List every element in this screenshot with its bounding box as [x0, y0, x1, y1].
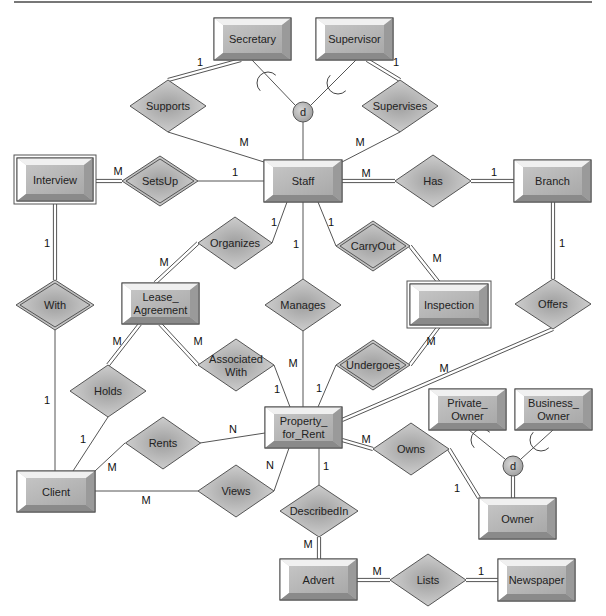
relationship-carryout[interactable]: CarryOut	[336, 221, 410, 271]
relationship-label: Organizes	[210, 237, 261, 249]
relationship-supports[interactable]: Supports	[130, 80, 206, 132]
entity-private_owner[interactable]: Private_Owner	[429, 389, 506, 430]
entity-secretary[interactable]: Secretary	[214, 18, 291, 60]
entity-newspaper[interactable]: Newspaper	[498, 559, 575, 601]
connector-line: M	[342, 132, 400, 162]
relationship-organizes[interactable]: Organizes	[198, 217, 272, 269]
cardinality-label: 1	[393, 56, 399, 68]
cardinality-label: 1	[478, 565, 484, 577]
subset-arc-icon	[327, 75, 346, 94]
connector-line: M	[409, 324, 442, 366]
connector-line: M	[107, 323, 142, 366]
connector-line: M	[95, 443, 125, 473]
cardinality-label: M	[355, 136, 364, 148]
relationship-label: DescribedIn	[290, 505, 349, 517]
disjoint-specialization-staff_disjoint: d	[293, 102, 313, 122]
cardinality-label: 1	[232, 166, 238, 178]
entity-staff[interactable]: Staff	[264, 160, 342, 202]
relationship-offers[interactable]: Offers	[515, 279, 591, 329]
cardinality-label: 1	[491, 166, 497, 178]
entity-interview[interactable]: Interview	[14, 155, 96, 204]
cardinality-label: 1	[274, 383, 280, 395]
disjoint-label: d	[510, 460, 516, 472]
relationship-undergoes[interactable]: Undergoes	[336, 340, 410, 390]
entity-supervisor[interactable]: Supervisor	[316, 18, 393, 60]
entity-label: Client	[42, 486, 70, 498]
cardinality-label: 1	[559, 237, 565, 249]
entity-label: Inspection	[424, 299, 474, 311]
relationship-with[interactable]: With	[16, 280, 94, 330]
connector-line: 1	[318, 202, 336, 246]
cardinality-label: 1	[80, 433, 86, 445]
cardinality-label: N	[266, 459, 274, 471]
connector-line: M	[409, 245, 442, 285]
connector-line: 1	[551, 202, 565, 279]
relationship-manages[interactable]: Manages	[265, 279, 341, 331]
cardinality-label: M	[361, 167, 370, 179]
cardinality-label: M	[439, 362, 448, 374]
entity-advert[interactable]: Advert	[280, 559, 357, 600]
cardinality-label: M	[426, 335, 435, 347]
cardinality-label: M	[113, 165, 122, 177]
connector-line: 1	[448, 448, 481, 499]
relationship-label: Owns	[397, 443, 426, 455]
entity-business_owner[interactable]: Business_Owner	[515, 389, 592, 430]
connector-line: N	[200, 423, 265, 443]
cardinality-label: 1	[328, 216, 334, 228]
entity-label: Interview	[33, 174, 77, 186]
entity-label: Staff	[292, 175, 315, 187]
relationship-label: Supports	[146, 100, 191, 112]
cardinality-label: M	[303, 538, 312, 550]
relationship-setsup[interactable]: SetsUp	[122, 156, 198, 206]
entity-label: Owner	[537, 410, 570, 422]
relationship-rents[interactable]: Rents	[126, 417, 201, 469]
connector-line: M	[357, 565, 390, 582]
relationship-label: Rents	[149, 437, 178, 449]
entity-label: Lease_	[142, 291, 179, 303]
relationship-holds[interactable]: Holds	[70, 365, 146, 417]
er-diagram: 1M1MM1M1111M1M1M1MM1M1M1MNMN1MM1M1 Suppo…	[0, 0, 606, 616]
entity-property_for_rent[interactable]: Property_for_Rent	[265, 407, 342, 448]
relationship-associated_with[interactable]: AssociatedWith	[198, 339, 274, 391]
connector-line: M	[168, 132, 264, 162]
connector-line: M	[159, 323, 203, 366]
relationship-label: Views	[221, 485, 251, 497]
entity-client[interactable]: Client	[17, 471, 95, 512]
relationship-views[interactable]: Views	[198, 465, 274, 517]
connector-line	[521, 430, 553, 459]
entity-lease_agreement[interactable]: Lease_Agreement	[122, 283, 199, 324]
cardinality-label: M	[193, 335, 202, 347]
cardinality-label: M	[361, 433, 370, 445]
relationship-owns[interactable]: Owns	[373, 423, 449, 475]
entity-label: Branch	[535, 175, 570, 187]
entity-branch[interactable]: Branch	[514, 160, 591, 202]
entity-label: Private_	[447, 397, 488, 409]
connector-line: 1	[73, 417, 108, 471]
cardinality-label: 1	[44, 394, 50, 406]
cardinality-label: M	[141, 494, 150, 506]
relationship-label: Lists	[417, 574, 440, 586]
connector-line: 1	[198, 166, 264, 181]
relationship-supervises[interactable]: Supervises	[362, 80, 438, 132]
relationship-label: Holds	[94, 385, 123, 397]
relationship-label: Associated	[209, 353, 263, 365]
cardinality-label: 1	[44, 237, 50, 249]
relationship-describedin[interactable]: DescribedIn	[280, 485, 358, 537]
connector-line: 1	[44, 330, 55, 471]
connector-line: M	[154, 242, 199, 284]
entity-owner[interactable]: Owner	[479, 498, 556, 539]
connector-line	[469, 430, 505, 459]
relationship-lists[interactable]: Lists	[390, 554, 466, 606]
entity-label: Owner	[451, 410, 484, 422]
connector-line: M	[303, 537, 320, 559]
relationship-label: With	[225, 366, 247, 378]
entity-inspection[interactable]: Inspection	[407, 281, 491, 328]
entity-label: Newspaper	[509, 574, 565, 586]
cardinality-label: M	[159, 256, 168, 268]
entity-label: Agreement	[134, 304, 188, 316]
connector-line	[311, 60, 356, 105]
cardinality-label: M	[107, 461, 116, 473]
connector-line: 1	[44, 201, 57, 280]
relationship-has[interactable]: Has	[395, 155, 471, 207]
entity-label: Business_	[528, 397, 580, 409]
